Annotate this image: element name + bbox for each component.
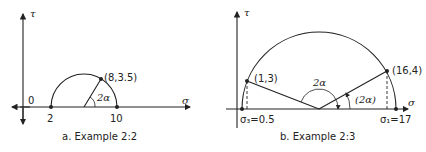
point-sigma1 — [394, 107, 398, 111]
figure-a: τ σ 0 2 10 (8,3.5) 2α a. Example 2:2 — [12, 8, 190, 142]
sigma1-label: σ₁=17 — [380, 114, 411, 125]
right-angle-label-b: (2α) — [355, 94, 376, 105]
tau-label-b: τ — [244, 7, 250, 18]
point-10 — [115, 105, 119, 109]
point-8-3.5 — [99, 77, 103, 81]
point-1-3 — [245, 79, 249, 83]
point-16-4 — [385, 69, 389, 73]
caption-b: b. Example 2:3 — [280, 131, 355, 142]
tau-label-a: τ — [30, 8, 36, 19]
left-point-label-b: (1,3) — [254, 73, 278, 84]
sigma-label-b: σ — [408, 97, 416, 108]
center-angle-label-b: 2α — [312, 77, 326, 88]
radius-line-left-b — [247, 81, 319, 109]
right-point-label-a: 10 — [110, 113, 123, 124]
sigma3-label: σ₃=0.5 — [240, 114, 275, 125]
left-point-label-a: 2 — [47, 113, 53, 124]
angle-label-a: 2α — [96, 92, 110, 103]
right-angle-arc-b — [346, 93, 350, 109]
radius-line-right-b — [319, 71, 387, 109]
right-point-label-b: (16,4) — [392, 65, 422, 76]
origin-label: 0 — [28, 95, 34, 106]
point-sigma3 — [240, 107, 244, 111]
center-angle-arc-b — [301, 89, 338, 109]
caption-a: a. Example 2:2 — [62, 131, 137, 142]
point-label-a: (8,3.5) — [104, 72, 137, 83]
sigma-label-a: σ — [182, 95, 190, 106]
figure-b: τ σ (1,3) (16,4) 2α (2α) σ₃=0.5 σ₁=17 b.… — [226, 7, 422, 142]
angle-arc-a — [90, 97, 95, 107]
point-2 — [49, 105, 53, 109]
mohr-circle-figures: τ σ 0 2 10 (8,3.5) 2α a. Example 2:2 τ σ… — [0, 0, 426, 152]
